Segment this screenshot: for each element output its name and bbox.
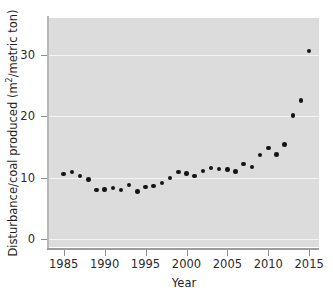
data-point [111, 186, 116, 191]
gridline-y-0 [49, 239, 319, 240]
x-tick-2005 [227, 250, 228, 256]
data-point [160, 181, 165, 186]
data-point [307, 49, 312, 54]
data-point [299, 98, 304, 103]
data-point [102, 187, 107, 192]
scatter-chart-figure: 0102030 1985199019952000200520102015 Dis… [0, 0, 333, 302]
x-tick-label-1990: 1990 [85, 258, 125, 271]
x-tick-label-1995: 1995 [126, 258, 166, 271]
x-tick-1995 [146, 250, 147, 256]
data-point [70, 170, 75, 175]
data-point [209, 166, 214, 171]
y-tick-0 [41, 239, 47, 240]
data-point [266, 146, 271, 151]
y-tick-20 [41, 116, 47, 117]
x-tick-1985 [64, 250, 65, 256]
x-axis-title: Year [49, 276, 319, 290]
data-point [274, 152, 279, 157]
x-tick-1990 [105, 250, 106, 256]
x-tick-2015 [309, 250, 310, 256]
y-tick-30 [41, 55, 47, 56]
gridline-y-30 [49, 55, 319, 56]
data-point [184, 171, 189, 176]
data-point [282, 142, 287, 147]
data-point [151, 184, 156, 189]
data-point [86, 177, 91, 182]
data-point [168, 176, 173, 181]
plot-area [49, 18, 319, 247]
y-axis-line [47, 16, 49, 249]
x-tick-label-2000: 2000 [167, 258, 207, 271]
data-point [127, 183, 132, 188]
data-point [143, 185, 148, 190]
data-point [291, 113, 296, 118]
data-point [241, 162, 246, 167]
x-tick-label-2015: 2015 [289, 258, 329, 271]
y-axis-title: Disturbance/coal produced (m2/metric ton… [5, 8, 21, 258]
data-point [250, 165, 255, 170]
data-point [176, 170, 181, 175]
y-tick-10 [41, 178, 47, 179]
x-tick-2000 [187, 250, 188, 256]
data-point [94, 188, 99, 193]
data-point [119, 188, 124, 193]
data-point [217, 167, 222, 172]
data-point [258, 153, 263, 158]
data-point [201, 169, 206, 174]
data-point [61, 172, 66, 177]
x-tick-label-2010: 2010 [248, 258, 288, 271]
x-tick-label-1985: 1985 [44, 258, 84, 271]
data-point [225, 167, 230, 172]
data-point [233, 169, 238, 174]
data-point [135, 189, 140, 194]
data-point [192, 174, 197, 179]
x-tick-2010 [268, 250, 269, 256]
x-axis-line [47, 248, 319, 250]
gridline-y-20 [49, 116, 319, 117]
x-tick-label-2005: 2005 [207, 258, 247, 271]
